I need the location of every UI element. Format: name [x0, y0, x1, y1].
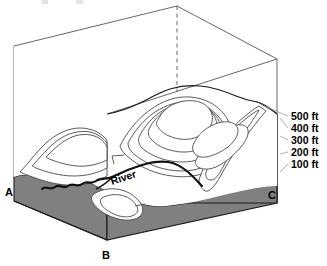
elevation-label-400: 400 ft	[291, 122, 319, 134]
elevation-label-200: 200 ft	[291, 146, 319, 158]
elevation-label-100: 100 ft	[291, 158, 319, 170]
corner-label-a: A	[5, 186, 13, 198]
elevation-label-500: 500 ft	[291, 110, 319, 122]
block-diagram-figure: A B C River 500 ft 400 ft 300 ft 200 ft …	[0, 0, 327, 266]
leader-100	[280, 164, 288, 172]
leader-400	[280, 118, 288, 128]
block-diagram-canvas: A B C River 500 ft 400 ft 300 ft 200 ft …	[0, 0, 327, 266]
elevation-label-300: 300 ft	[291, 134, 319, 146]
cropped-text-remnant	[42, 0, 83, 4]
corner-label-b: B	[102, 249, 110, 261]
leader-200	[280, 152, 288, 154]
leader-300	[280, 136, 288, 140]
corner-label-c: C	[268, 189, 276, 201]
